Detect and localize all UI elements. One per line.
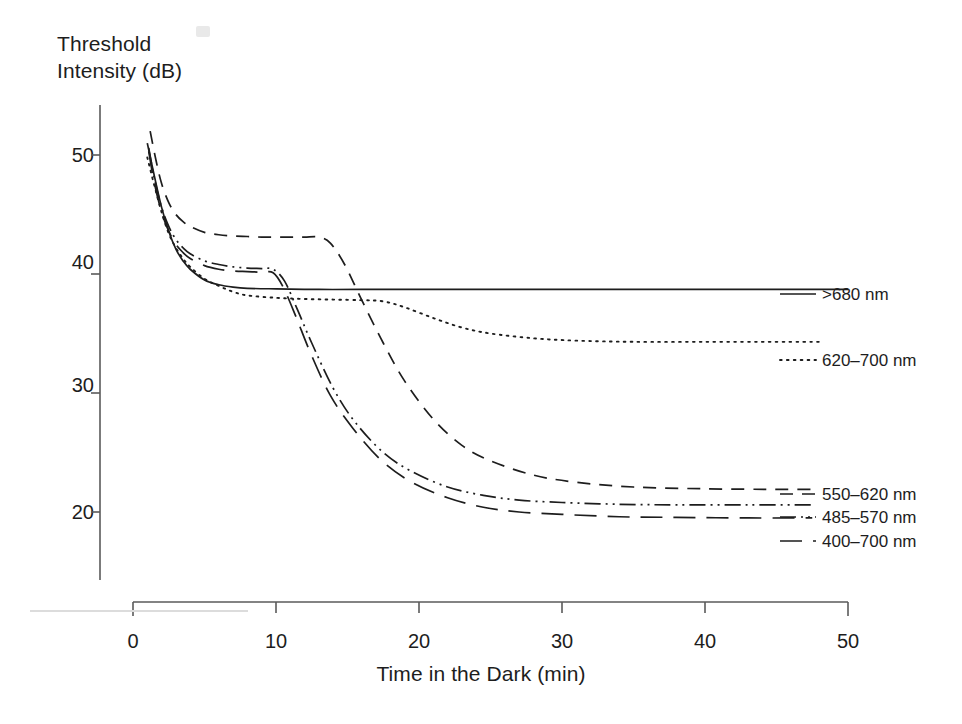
- curve-485-570-nm: [149, 148, 813, 505]
- dark-adaptation-chart: Threshold Intensity (dB) Time in the Dar…: [0, 0, 962, 724]
- plot-canvas: [0, 0, 962, 724]
- curve-400-700-nm: [149, 151, 813, 518]
- curves-layer: [147, 131, 848, 518]
- curve-550-620-nm: [150, 131, 812, 489]
- axes-layer: [30, 105, 848, 616]
- legend-swatch-layer: [780, 294, 816, 541]
- curve-620-700-nm: [147, 157, 819, 342]
